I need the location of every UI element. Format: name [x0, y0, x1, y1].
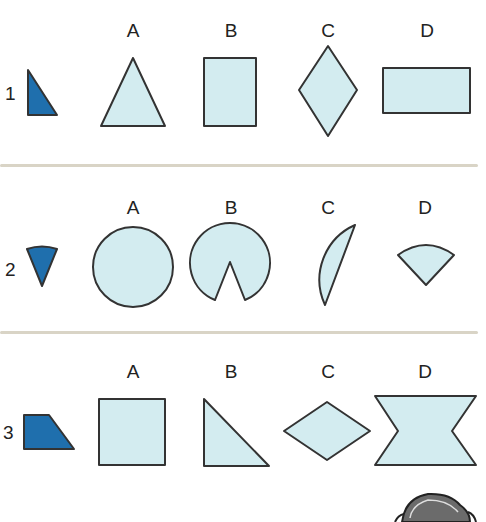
- row1-target-right-triangle: [28, 70, 57, 115]
- row3-option-c-rhombus[interactable]: [284, 402, 370, 460]
- row2-option-b-notched-circle[interactable]: [190, 223, 270, 300]
- shapes-canvas: [0, 0, 486, 522]
- row1-option-b-square[interactable]: [204, 58, 256, 126]
- row3-target-trapezoid: [24, 415, 74, 449]
- row3-option-d-bowtie[interactable]: [375, 396, 476, 465]
- row2-option-a-circle[interactable]: [93, 227, 173, 307]
- row2-target-sector: [27, 247, 57, 287]
- row1-option-a-triangle[interactable]: [101, 58, 165, 126]
- row1-option-d-rectangle[interactable]: [383, 68, 470, 113]
- row2-option-c-segment[interactable]: [319, 225, 355, 305]
- row1-option-c-rhombus[interactable]: [299, 46, 357, 136]
- row3-option-b-right-triangle[interactable]: [204, 399, 269, 466]
- row2-option-d-sector[interactable]: [398, 245, 454, 285]
- partial-character-head-icon: [395, 494, 476, 522]
- row3-option-a-square[interactable]: [99, 399, 165, 465]
